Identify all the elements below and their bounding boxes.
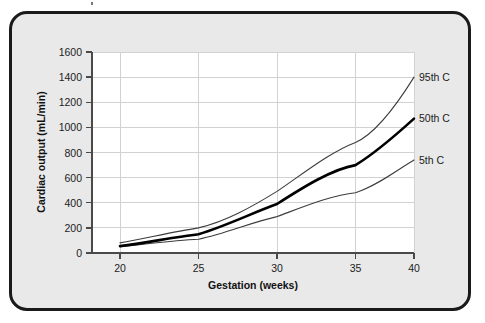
figure-container: 1600 1400 1200 1000 800 600 400 200 0 20…: [0, 0, 485, 323]
y-tick-label-1000: 1000: [59, 121, 83, 133]
y-tick-label-1400: 1400: [59, 71, 83, 83]
series-label-95th: 95th C: [419, 71, 450, 83]
series-label-50th: 50th C: [419, 112, 450, 124]
y-tick-label-800: 800: [64, 147, 82, 159]
x-axis: [92, 253, 414, 259]
y-tick-label-400: 400: [64, 197, 82, 209]
x-tick-label-35: 35: [350, 262, 362, 274]
x-tick-label-40: 40: [408, 262, 420, 274]
y-axis: [86, 52, 92, 253]
x-tick-label-30: 30: [271, 262, 283, 274]
y-axis-title: Cardiac output (mL/min): [35, 91, 47, 212]
y-tick-label-1600: 1600: [59, 46, 83, 58]
y-tick-label-200: 200: [64, 222, 82, 234]
x-axis-title: Gestation (weeks): [208, 279, 298, 291]
cardiac-output-chart: 1600 1400 1200 1000 800 600 400 200 0 20…: [0, 0, 485, 323]
y-tick-label-0: 0: [76, 247, 82, 259]
x-tick-label-25: 25: [193, 262, 205, 274]
series-label-5th: 5th C: [419, 154, 445, 166]
y-tick-label-1200: 1200: [59, 96, 83, 108]
y-tick-label-600: 600: [64, 172, 82, 184]
x-tick-label-20: 20: [114, 262, 126, 274]
